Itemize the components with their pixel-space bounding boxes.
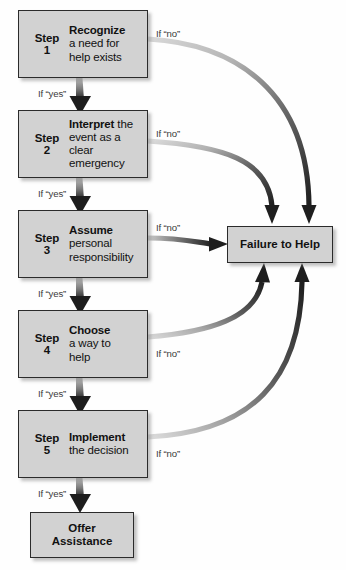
arrow-step4-no [148,263,270,337]
step-word-3: Step [35,232,60,244]
step-label-4: Step 4 [25,332,69,357]
arrow-layer [0,0,346,570]
step-box-2[interactable]: Step 2 Interpret the event as a clear em… [18,110,148,178]
step-word-1: Step [35,32,60,44]
label-no-3: If “no” [156,222,180,233]
step-line2-1: help exists [69,51,122,63]
step-line2-2: emergency [69,157,125,169]
step-desc-5: Implement the decision [69,431,143,457]
arrow-step2-no [148,141,280,224]
step-desc-1: Recognize a need for help exists [69,24,143,64]
step-line1-1: a need for [69,37,119,49]
failure-to-help-box[interactable]: Failure to Help [227,226,333,263]
step-line2-3: responsibility [69,251,133,263]
step-desc-3: Assume personal responsibility [69,224,143,264]
step-head-3: Assume [69,224,113,236]
label-no-1: If “no” [156,28,180,39]
step-tail-2: the [114,118,133,130]
step-line2-4: help [69,351,90,363]
step-head-5: Implement [69,431,125,443]
step-number-2: 2 [25,144,69,157]
flowchart-diagram: Step 1 Recognize a need for help exists … [0,0,346,570]
step-line1-2: event as a clear [69,131,121,156]
arrow-step5-yes [70,478,92,513]
label-yes-2: If “yes” [38,188,66,199]
arrow-step3-no [148,237,228,252]
label-yes-1: If “yes” [38,88,66,99]
label-no-4: If “no” [156,348,180,359]
label-yes-5: If “yes” [38,488,66,499]
step-word-5: Step [35,432,60,444]
step-number-1: 1 [25,44,69,57]
step-box-1[interactable]: Step 1 Recognize a need for help exists [18,10,148,78]
step-box-3[interactable]: Step 3 Assume personal responsibility [18,210,148,278]
step-desc-2: Interpret the event as a clear emergency [69,118,143,171]
outcome-box-offer-assistance[interactable]: Offer Assistance [30,512,134,558]
step-label-3: Step 3 [25,232,69,257]
step-label-5: Step 5 [25,432,69,457]
step-label-2: Step 2 [25,132,69,157]
step-box-5[interactable]: Step 5 Implement the decision [18,410,148,478]
step-head-4: Choose [69,324,110,336]
outcome-line1: Offer [68,522,95,534]
outcome-text: Offer Assistance [52,522,113,549]
step-number-4: 4 [25,344,69,357]
step-head-1: Recognize [69,24,125,36]
step-word-2: Step [35,132,60,144]
outcome-line2: Assistance [52,535,113,547]
step-line1-5: the decision [69,444,129,456]
step-word-4: Step [35,332,60,344]
label-no-5: If “no” [156,448,180,459]
step-desc-4: Choose a way to help [69,324,143,364]
failure-to-help-label: Failure to Help [240,238,320,252]
step-line1-3: personal [69,237,112,249]
step-head-2: Interpret [69,118,114,130]
step-line1-4: a way to [69,337,111,349]
label-yes-4: If “yes” [38,388,66,399]
step-number-3: 3 [25,244,69,257]
step-box-4[interactable]: Step 4 Choose a way to help [18,310,148,378]
label-yes-3: If “yes” [38,288,66,299]
label-no-2: If “no” [156,128,180,139]
step-number-5: 5 [25,444,69,457]
step-label-1: Step 1 [25,32,69,57]
